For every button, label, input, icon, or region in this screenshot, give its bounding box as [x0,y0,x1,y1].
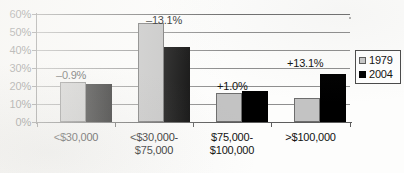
x-axis-sep-4 [350,122,351,127]
y-axis-label-50: 50% [0,26,31,38]
legend-item-1979[interactable]: 1979 [359,53,398,67]
bar-1979-lt-30000 [60,82,86,122]
legend-label-2004: 2004 [369,68,393,80]
y-axis-labels: 60% 50% 40% 30% 20% 10% 0% [0,0,31,173]
delta-label-gt-100000: +13.1% [287,57,323,69]
delta-label-75000-100000: +1.0% [217,80,248,92]
y-axis-label-0: 0% [0,116,31,128]
y-axis-label-10: 10% [0,98,31,110]
y-axis-label-20: 20% [0,80,31,92]
bar-1979-30000-75000 [138,23,164,122]
legend-label-1979: 1979 [369,54,393,66]
scan-speck [349,17,351,19]
x-axis-sep-0 [37,122,38,127]
gridline-60 [37,14,350,15]
bar-1979-gt-100000 [294,98,320,122]
category-label-lt-30000: <$30,000 [37,131,115,144]
gridline-50 [37,32,350,33]
legend-item-2004[interactable]: 2004 [359,67,398,81]
x-axis-sep-1 [115,122,116,127]
gray-swatch-icon [359,57,366,64]
category-label-30000-75000: <$30,000- $75,000 [115,131,193,157]
x-axis-sep-3 [271,122,272,127]
bar-chart: 60% 50% 40% 30% 20% 10% 0% –0.9 [0,0,404,173]
bar-1979-75000-100000 [216,93,242,122]
bar-2004-30000-75000 [164,47,190,122]
category-label-gt-100000: >$100,000 [271,131,350,144]
category-label-75000-100000: $75,000- $100,000 [193,131,271,157]
black-swatch-icon [359,71,366,78]
x-axis-line [36,122,352,123]
bar-2004-75000-100000 [242,91,268,122]
y-axis-label-40: 40% [0,44,31,56]
delta-label-lt-30000: –0.9% [56,69,86,81]
y-axis-label-30: 30% [0,62,31,74]
delta-label-30000-75000: –13.1% [146,14,182,26]
chart-legend: 1979 2004 [355,50,401,84]
bar-2004-gt-100000 [320,74,346,122]
y-axis-label-60: 60% [0,8,31,20]
gridline-40 [37,50,350,51]
x-axis-sep-2 [193,122,194,127]
bar-2004-lt-30000 [86,84,112,122]
